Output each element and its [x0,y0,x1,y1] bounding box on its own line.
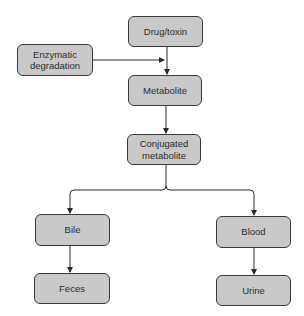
node-enzymatic-degradation: Enzymatic degradation [17,44,93,76]
node-label: Blood [241,226,265,238]
node-label: Conjugated metabolite [136,138,192,161]
node-label: Urine [242,285,265,297]
node-urine: Urine [216,275,291,306]
node-metabolite: Metabolite [128,75,202,106]
edge-conjugated-blood [166,186,254,215]
node-feces: Feces [34,273,110,304]
edge-conjugated-bile [70,165,166,213]
node-bile: Bile [35,214,110,246]
node-conjugated-metabolite: Conjugated metabolite [127,134,201,165]
node-drug-toxin: Drug/toxin [128,16,203,47]
node-label: Metabolite [143,85,187,97]
node-blood: Blood [216,216,291,248]
node-label: Enzymatic degradation [24,49,86,72]
node-label: Drug/toxin [144,26,187,38]
metabolism-flowchart: Drug/toxin Enzymatic degradation Metabol… [0,0,304,316]
node-label: Bile [65,224,81,236]
node-label: Feces [59,283,85,295]
